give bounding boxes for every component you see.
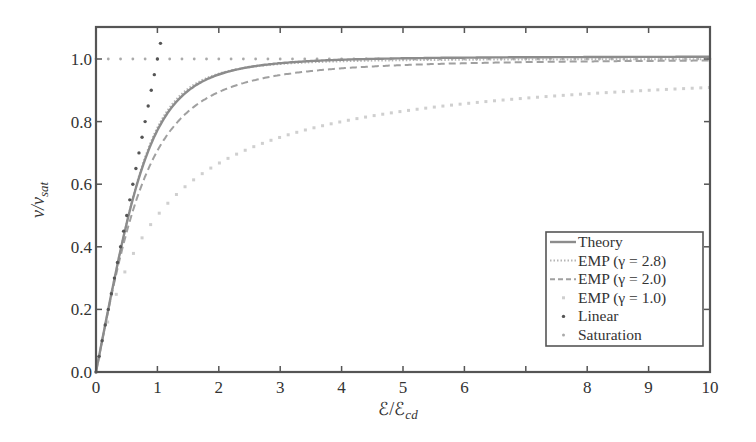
chart: 01234568910 0.00.20.40.60.81.0 ℰ/ℰcd v/v… — [0, 0, 756, 442]
legend-label: Theory — [578, 233, 623, 250]
x-tick-label: 5 — [399, 378, 408, 397]
legend-label: EMP (γ = 2.0) — [578, 270, 666, 288]
x-tick-label: 6 — [460, 378, 469, 397]
legend-label: EMP (γ = 1.0) — [578, 289, 666, 307]
y-tick-label: 0.6 — [71, 175, 92, 194]
x-tick-label: 2 — [215, 378, 224, 397]
legend-label: EMP (γ = 2.8) — [578, 252, 666, 270]
x-tick-label: 3 — [276, 378, 285, 397]
y-tick-label: 0.0 — [71, 363, 92, 382]
legend-label: Saturation — [578, 326, 642, 343]
x-tick-label: 10 — [702, 378, 719, 397]
x-tick-label: 1 — [153, 378, 162, 397]
y-tick-label: 1.0 — [71, 50, 92, 69]
x-tick-label: 4 — [337, 378, 346, 397]
y-axis-label: v/vsat — [28, 182, 51, 219]
legend-item: EMP (γ = 1.0) — [562, 289, 666, 307]
legend: TheoryEMP (γ = 2.8)EMP (γ = 2.0)EMP (γ =… — [546, 232, 703, 346]
legend-label: Linear — [578, 307, 619, 324]
y-tick-label: 0.4 — [71, 238, 93, 257]
y-tick-label: 0.2 — [71, 300, 92, 319]
x-tick-label: 8 — [583, 378, 592, 397]
x-axis-label: ℰ/ℰcd — [378, 399, 418, 422]
x-tick-label: 0 — [92, 378, 101, 397]
x-tick-label: 9 — [644, 378, 653, 397]
y-tick-label: 0.8 — [71, 113, 92, 132]
